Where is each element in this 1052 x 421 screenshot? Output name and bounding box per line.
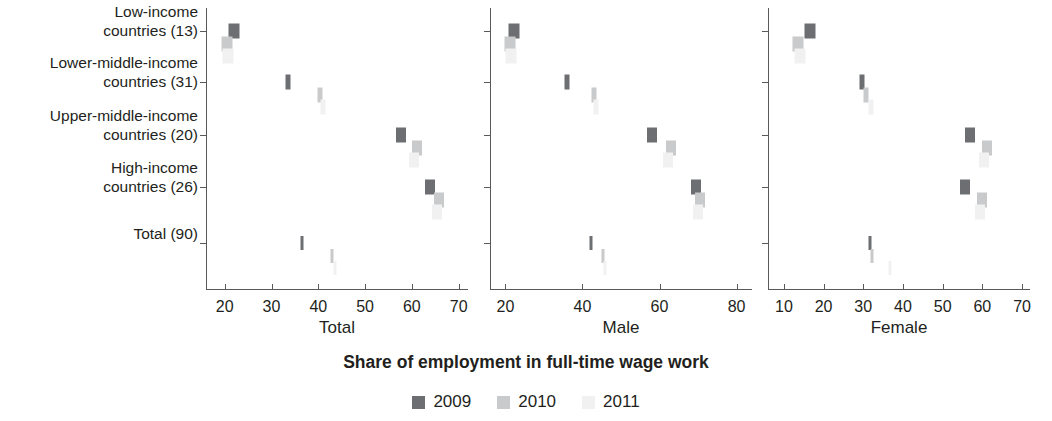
y-axis-label-line1: Lower-middle-income xyxy=(50,53,198,72)
x-axis-tick-0 xyxy=(505,284,506,290)
data-point-2011 xyxy=(868,100,873,115)
y-axis-line xyxy=(206,8,207,290)
data-point-2011 xyxy=(223,49,234,64)
legend-item-2011[interactable]: 2011 xyxy=(582,392,640,412)
x-axis-tick-label: 70 xyxy=(450,298,468,316)
y-axis-label-0: Low-incomecountries (13) xyxy=(103,2,198,40)
x-axis-line xyxy=(768,289,1030,290)
y-axis-tick-1 xyxy=(762,82,768,83)
data-point-2011 xyxy=(593,100,598,115)
x-axis-tick-2 xyxy=(318,284,319,290)
y-axis-label-4: Total (90) xyxy=(133,224,198,243)
y-axis-tick-1 xyxy=(200,82,206,83)
x-axis-tick-label: 60 xyxy=(403,298,421,316)
legend-swatch-icon xyxy=(582,396,595,409)
x-axis-tick-1 xyxy=(272,284,273,290)
legend-item-2009[interactable]: 2009 xyxy=(412,392,471,412)
y-axis-label-line1: Upper-middle-income xyxy=(50,106,198,125)
x-axis-tick-5 xyxy=(982,284,983,290)
data-point-2009 xyxy=(300,236,303,250)
y-axis-tick-2 xyxy=(200,135,206,136)
y-axis-label-line1: Low-income xyxy=(103,2,198,21)
x-axis-tick-5 xyxy=(459,284,460,290)
data-point-2009 xyxy=(647,128,657,143)
panel-caption-total: Total xyxy=(319,318,355,338)
x-axis-tick-label: 60 xyxy=(651,298,669,316)
data-point-2011 xyxy=(693,205,703,220)
y-axis-line xyxy=(768,8,769,290)
y-axis-tick-3 xyxy=(200,187,206,188)
data-point-2009 xyxy=(960,180,970,195)
panel-female: 10203040506070 xyxy=(768,8,1030,290)
y-axis-label-line2: Total (90) xyxy=(133,224,198,243)
panel-caption-male: Male xyxy=(603,318,640,338)
data-point-2011 xyxy=(320,100,325,115)
x-axis-tick-label: 60 xyxy=(973,298,991,316)
data-point-2011 xyxy=(603,261,606,275)
y-axis-label-line2: countries (13) xyxy=(103,21,198,40)
x-axis-tick-3 xyxy=(365,284,366,290)
x-axis-tick-2 xyxy=(863,284,864,290)
y-axis-tick-1 xyxy=(484,82,490,83)
x-axis-title: Share of employment in full-time wage wo… xyxy=(0,352,1052,373)
data-point-2009 xyxy=(805,24,816,39)
x-axis-tick-label: 30 xyxy=(854,298,872,316)
x-axis-tick-label: 10 xyxy=(775,298,793,316)
data-point-2011 xyxy=(795,49,806,64)
panel-male: 20406080 xyxy=(490,8,752,290)
y-axis-tick-3 xyxy=(484,187,490,188)
x-axis-tick-label: 50 xyxy=(356,298,374,316)
x-axis-tick-4 xyxy=(412,284,413,290)
legend-label: 2011 xyxy=(603,392,640,412)
panel-total: 203040506070 xyxy=(206,8,468,290)
x-axis-tick-label: 20 xyxy=(216,298,234,316)
x-axis-tick-3 xyxy=(737,284,738,290)
y-axis-tick-0 xyxy=(200,31,206,32)
y-axis-label-1: Lower-middle-incomecountries (31) xyxy=(50,53,198,91)
panel-caption-female: Female xyxy=(871,318,928,338)
y-axis-label-line1: High-income xyxy=(103,158,198,177)
x-axis-tick-label: 40 xyxy=(894,298,912,316)
x-axis-tick-label: 20 xyxy=(497,298,515,316)
y-axis-label-line2: countries (31) xyxy=(50,72,198,91)
data-point-2011 xyxy=(432,205,442,220)
x-axis-tick-label: 70 xyxy=(1013,298,1031,316)
data-point-2011 xyxy=(333,261,336,275)
y-axis-label-2: Upper-middle-incomecountries (20) xyxy=(50,106,198,144)
chart-figure: Low-incomecountries (13)Lower-middle-inc… xyxy=(0,0,1052,421)
x-axis-tick-0 xyxy=(225,284,226,290)
x-axis-tick-label: 40 xyxy=(309,298,327,316)
x-axis-tick-label: 20 xyxy=(815,298,833,316)
data-point-2011 xyxy=(506,49,517,64)
chart-legend: 200920102011 xyxy=(0,392,1052,412)
data-point-2011 xyxy=(979,153,989,168)
x-axis-line xyxy=(206,289,468,290)
y-axis-label-line2: countries (20) xyxy=(50,125,198,144)
data-point-2011 xyxy=(409,153,419,168)
y-axis-line xyxy=(490,8,491,290)
x-axis-tick-6 xyxy=(1022,284,1023,290)
legend-swatch-icon xyxy=(497,396,510,409)
y-axis-label-3: High-incomecountries (26) xyxy=(103,158,198,196)
data-point-2011 xyxy=(663,153,673,168)
x-axis-line xyxy=(490,289,752,290)
y-axis-tick-2 xyxy=(484,135,490,136)
y-axis-label-line2: countries (26) xyxy=(103,177,198,196)
legend-label: 2009 xyxy=(433,392,471,412)
data-point-2009 xyxy=(965,128,975,143)
legend-label: 2010 xyxy=(518,392,556,412)
y-axis-tick-0 xyxy=(762,31,768,32)
x-axis-tick-1 xyxy=(824,284,825,290)
y-axis-tick-4 xyxy=(762,243,768,244)
data-point-2011 xyxy=(975,205,985,220)
x-axis-tick-1 xyxy=(582,284,583,290)
y-axis-tick-3 xyxy=(762,187,768,188)
x-axis-tick-label: 50 xyxy=(934,298,952,316)
x-axis-tick-2 xyxy=(660,284,661,290)
x-axis-tick-label: 40 xyxy=(574,298,592,316)
y-axis-category-labels: Low-incomecountries (13)Lower-middle-inc… xyxy=(0,0,206,290)
data-point-2009 xyxy=(868,236,871,250)
y-axis-tick-2 xyxy=(762,135,768,136)
data-point-2009 xyxy=(286,75,291,90)
legend-item-2010[interactable]: 2010 xyxy=(497,392,556,412)
